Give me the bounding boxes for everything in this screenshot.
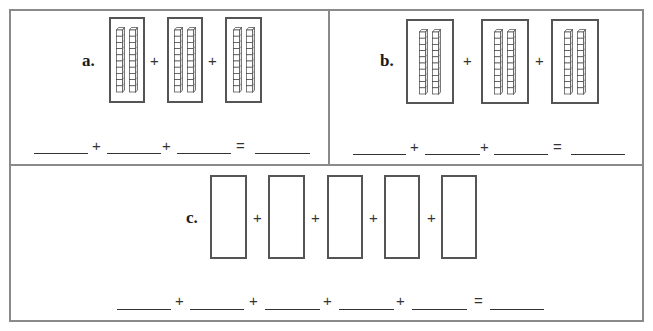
tens-group bbox=[327, 175, 363, 259]
plus-sign: + bbox=[369, 210, 378, 226]
ten-rod-icon bbox=[419, 29, 426, 95]
ten-rod-icon bbox=[432, 29, 439, 95]
ten-rod-icon bbox=[174, 27, 181, 93]
ten-rod-icon bbox=[577, 29, 584, 95]
answer-blank[interactable] bbox=[412, 309, 467, 310]
tens-group bbox=[109, 17, 145, 103]
sum-blank[interactable] bbox=[255, 153, 310, 154]
answer-blank[interactable] bbox=[177, 153, 231, 154]
sum-blank[interactable] bbox=[490, 309, 544, 310]
ten-rod-icon bbox=[564, 29, 571, 95]
answer-blank[interactable] bbox=[34, 153, 88, 154]
tens-group bbox=[225, 17, 262, 103]
answer-blank[interactable] bbox=[265, 309, 320, 310]
plus-sign: + bbox=[92, 138, 101, 154]
tens-group bbox=[441, 175, 477, 259]
answer-blank[interactable] bbox=[339, 309, 394, 310]
ten-rod-icon bbox=[233, 27, 240, 93]
plus-sign: + bbox=[396, 293, 405, 309]
answer-blank[interactable] bbox=[107, 153, 161, 154]
tens-group bbox=[551, 19, 599, 104]
plus-sign: + bbox=[208, 53, 217, 69]
equals-sign: = bbox=[474, 293, 483, 309]
ten-rod-icon bbox=[129, 27, 136, 93]
tens-group bbox=[481, 19, 529, 104]
answer-blank[interactable] bbox=[494, 154, 548, 155]
plus-sign: + bbox=[410, 139, 419, 155]
answer-blank[interactable] bbox=[190, 309, 244, 310]
plus-sign: + bbox=[150, 53, 159, 69]
tens-group bbox=[210, 175, 247, 259]
plus-sign: + bbox=[480, 139, 489, 155]
problem-label: c. bbox=[186, 209, 198, 227]
tens-group bbox=[167, 17, 203, 103]
plus-sign: + bbox=[311, 210, 320, 226]
ten-rod-icon bbox=[507, 29, 514, 95]
tens-group bbox=[384, 175, 420, 259]
plus-sign: + bbox=[427, 210, 436, 226]
divider-horizontal bbox=[9, 164, 644, 166]
sum-blank[interactable] bbox=[571, 154, 625, 155]
plus-sign: + bbox=[249, 293, 258, 309]
plus-sign: + bbox=[323, 293, 332, 309]
plus-sign: + bbox=[162, 138, 171, 154]
problem-label: b. bbox=[380, 52, 394, 70]
answer-blank[interactable] bbox=[117, 309, 171, 310]
answer-blank[interactable] bbox=[353, 154, 406, 155]
plus-sign: + bbox=[535, 53, 544, 69]
equals-sign: = bbox=[553, 139, 562, 155]
ten-rod-icon bbox=[246, 27, 253, 93]
ten-rod-icon bbox=[494, 29, 501, 95]
tens-group bbox=[406, 19, 454, 104]
ten-rod-icon bbox=[116, 27, 123, 93]
ten-rod-icon bbox=[187, 27, 194, 93]
tens-group bbox=[268, 175, 305, 259]
answer-blank[interactable] bbox=[425, 154, 480, 155]
plus-sign: + bbox=[175, 293, 184, 309]
problem-label: a. bbox=[82, 52, 95, 70]
plus-sign: + bbox=[253, 210, 262, 226]
divider-vertical bbox=[328, 9, 330, 166]
equals-sign: = bbox=[236, 138, 245, 154]
plus-sign: + bbox=[463, 53, 472, 69]
